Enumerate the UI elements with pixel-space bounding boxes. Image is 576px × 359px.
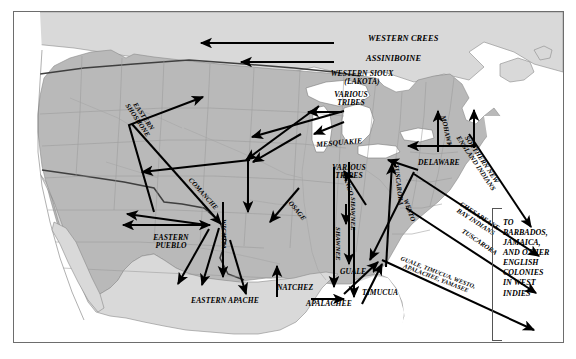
caption-line: INDIES xyxy=(503,289,564,299)
caption-line: BARBADOS, xyxy=(503,228,564,238)
label-eastern-apache: EASTERN APACHE xyxy=(191,297,259,305)
arrow-great-lakes-inflow xyxy=(246,106,319,160)
west-indies-bracket xyxy=(492,208,502,341)
map-root: WESTERN CREES ASSINIBOINE WESTERN SIOUX … xyxy=(0,0,576,359)
label-various-tribes-north: VARIOUS TRIBES xyxy=(323,91,379,106)
label-shawnee-west: SHAWNEE xyxy=(334,227,341,261)
label-western-sioux: WESTERN SIOUX (LAKOTA) xyxy=(316,70,408,85)
arrow-various-tribes-north xyxy=(314,122,344,134)
arrow-western-sioux-sw xyxy=(252,111,344,137)
label-delaware: DELAWARE xyxy=(418,159,460,167)
arrow-pueblo-northwest xyxy=(127,214,207,225)
west-indies-caption: TO BARBADOS, JAMAICA, AND OTHER ENGLISH … xyxy=(503,218,564,299)
label-guale: GUALE xyxy=(340,268,366,276)
label-western-crees: WESTERN CREES xyxy=(368,35,438,44)
caption-line: JAMAICA, xyxy=(503,238,564,248)
caption-line: IN WEST xyxy=(503,278,564,288)
caption-line: AND OTHER xyxy=(503,248,564,258)
caption-line: TO xyxy=(503,218,564,228)
label-apalachee: APALACHEE xyxy=(306,300,352,308)
map-canvas: WESTERN CREES ASSINIBOINE WESTERN SIOUX … xyxy=(14,12,563,342)
label-natchez: NATCHEZ xyxy=(277,284,313,292)
caption-line: COLONIES xyxy=(503,268,564,278)
label-eastern-pueblo: EASTERN PUEBLO xyxy=(143,234,199,249)
label-wichita: WICHITA xyxy=(220,219,227,249)
map-frame: WESTERN CREES ASSINIBOINE WESTERN SIOUX … xyxy=(13,11,564,343)
caption-line: ENGLISH xyxy=(503,258,564,268)
label-timucua: TIMUCUA xyxy=(362,289,398,297)
label-shawnee-east: SHAWNEE xyxy=(349,197,356,231)
arrow-eastern-apache-3 xyxy=(230,240,246,294)
label-assiniboine: ASSINIBOINE xyxy=(366,55,421,64)
arrow-mesquakie xyxy=(142,160,250,172)
